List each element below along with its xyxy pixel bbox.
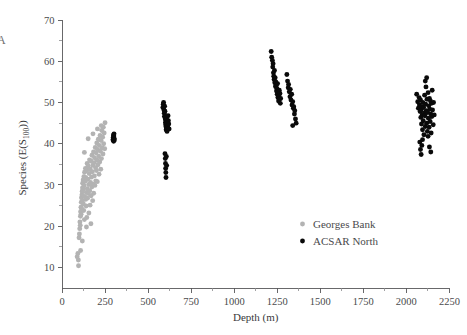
data-point bbox=[284, 72, 289, 77]
data-point bbox=[427, 145, 432, 150]
figure-container: A 10203040506070025050075010001250150017… bbox=[0, 0, 467, 335]
data-point bbox=[162, 104, 167, 109]
data-point bbox=[86, 211, 91, 216]
data-point bbox=[424, 75, 429, 80]
x-tick-label: 1250 bbox=[267, 296, 288, 307]
data-point bbox=[278, 91, 283, 96]
data-point bbox=[88, 221, 93, 226]
x-tick-label: 1500 bbox=[310, 296, 331, 307]
x-axis-title: Depth (m) bbox=[233, 311, 279, 324]
data-point bbox=[286, 82, 291, 87]
data-point bbox=[80, 239, 85, 244]
axes: 1020304050607002505007501000125015001750… bbox=[44, 15, 460, 307]
legend-marker bbox=[300, 239, 305, 244]
data-point bbox=[291, 104, 296, 109]
y-tick-label: 30 bbox=[44, 180, 55, 191]
scatter-plot: 1020304050607002505007501000125015001750… bbox=[0, 0, 467, 335]
data-point bbox=[289, 92, 294, 97]
data-point bbox=[84, 225, 89, 230]
x-tick-label: 750 bbox=[183, 296, 199, 307]
x-tick-label: 250 bbox=[97, 296, 113, 307]
data-point bbox=[292, 108, 297, 113]
data-point bbox=[428, 150, 433, 155]
data-point bbox=[164, 163, 169, 168]
data-point bbox=[420, 137, 425, 142]
data-point bbox=[78, 248, 83, 253]
data-point bbox=[97, 172, 102, 177]
data-point bbox=[76, 263, 81, 268]
data-point bbox=[278, 101, 283, 106]
y-tick-label: 10 bbox=[44, 262, 55, 273]
data-point bbox=[167, 126, 172, 131]
x-tick-label: 0 bbox=[59, 296, 64, 307]
data-point bbox=[101, 141, 106, 146]
data-point bbox=[81, 208, 86, 213]
data-point bbox=[424, 84, 429, 89]
data-point bbox=[278, 96, 283, 101]
legend: Georges BankACSAR North bbox=[300, 218, 379, 247]
y-tick-label: 70 bbox=[44, 15, 55, 26]
data-point bbox=[431, 122, 436, 127]
data-point bbox=[430, 108, 435, 113]
y-axis-title: Species (E(S100)) bbox=[16, 120, 31, 195]
data-point bbox=[293, 117, 298, 122]
data-point bbox=[82, 150, 87, 155]
x-tick-label: 1750 bbox=[353, 296, 374, 307]
data-point bbox=[163, 109, 168, 114]
legend-label: Georges Bank bbox=[313, 218, 376, 230]
y-tick-label: 20 bbox=[44, 221, 55, 232]
data-point bbox=[271, 61, 276, 66]
data-point bbox=[290, 123, 295, 128]
data-point bbox=[99, 123, 104, 128]
data-point bbox=[78, 223, 83, 228]
data-point bbox=[431, 100, 436, 105]
data-point bbox=[112, 138, 117, 143]
data-point bbox=[419, 152, 424, 157]
data-point bbox=[92, 173, 97, 178]
data-point bbox=[77, 232, 82, 237]
data-point bbox=[275, 81, 280, 86]
data-point bbox=[90, 198, 95, 203]
y-tick-label: 60 bbox=[44, 56, 55, 67]
data-point bbox=[166, 122, 171, 127]
data-point bbox=[95, 126, 100, 131]
data-point bbox=[426, 134, 431, 139]
data-point bbox=[427, 125, 432, 130]
data-point bbox=[98, 167, 103, 172]
data-point bbox=[269, 49, 274, 54]
data-point bbox=[84, 215, 89, 220]
data-point bbox=[272, 68, 277, 73]
data-point bbox=[112, 131, 117, 136]
data-point bbox=[91, 191, 96, 196]
data-point bbox=[432, 112, 437, 117]
x-tick-label: 2250 bbox=[439, 296, 460, 307]
data-point bbox=[95, 179, 100, 184]
data-point bbox=[166, 113, 171, 118]
data-point bbox=[99, 156, 104, 161]
data-point bbox=[426, 90, 431, 95]
data-point bbox=[273, 75, 278, 80]
y-tick-label: 40 bbox=[44, 138, 55, 149]
data-point bbox=[290, 99, 295, 104]
x-tick-label: 2000 bbox=[396, 296, 417, 307]
x-tick-label: 1000 bbox=[224, 296, 245, 307]
data-point bbox=[102, 146, 107, 151]
data-point bbox=[419, 143, 424, 148]
data-point bbox=[430, 88, 435, 93]
data-point bbox=[288, 87, 293, 92]
y-tick-label: 50 bbox=[44, 97, 55, 108]
data-point bbox=[163, 170, 168, 175]
data-point bbox=[164, 154, 169, 159]
axis-titles: Depth (m)Species (E(S100)) bbox=[16, 120, 279, 324]
data-point bbox=[102, 131, 107, 136]
legend-marker bbox=[300, 222, 305, 227]
data-point bbox=[91, 131, 96, 136]
x-tick-label: 500 bbox=[140, 296, 156, 307]
data-point bbox=[86, 136, 91, 141]
legend-label: ACSAR North bbox=[313, 235, 379, 247]
data-point bbox=[164, 175, 169, 180]
data-point bbox=[101, 152, 106, 157]
data-points bbox=[75, 49, 437, 268]
data-point bbox=[88, 203, 93, 208]
data-point bbox=[76, 258, 81, 263]
